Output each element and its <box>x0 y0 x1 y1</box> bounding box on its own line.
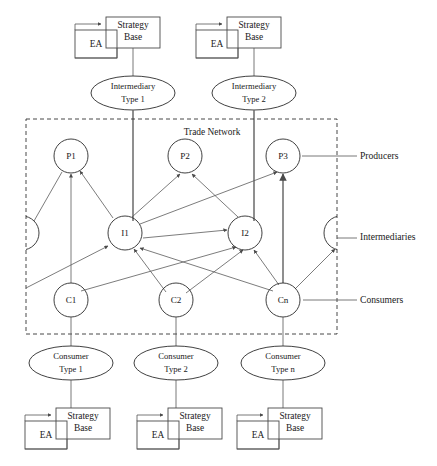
ea-feedback-arrow-intermediary-2 <box>196 24 222 30</box>
strategy-base-label-line2-consumer-1: Base <box>74 423 92 433</box>
ea-feedback-arrow-intermediary-1 <box>75 24 101 30</box>
ea-return-path-intermediary-1 <box>75 48 117 58</box>
trade-network-label: Trade Network <box>184 127 241 137</box>
consumer-type-2-agent-block: Consumer Type 2 EA Strategy Base <box>134 317 222 449</box>
consumer-label-c2: C2 <box>171 295 182 305</box>
intermediary-label-i2: I2 <box>241 228 249 238</box>
intermediary-partial-right-node <box>324 216 358 250</box>
edge-left-partial-to-p1 <box>34 172 62 221</box>
producers-layer: P1 P2 P3 <box>54 139 300 173</box>
edge-i1-to-p2 <box>132 174 180 217</box>
edge-left-edge-to-i1 <box>26 246 108 288</box>
consumer-type-n-label-line1: Consumer <box>265 351 300 361</box>
intermediary-type-2-label-line2: Type 2 <box>242 94 266 104</box>
producer-label-p2: P2 <box>180 151 190 161</box>
edge-c2-to-i2 <box>186 250 243 293</box>
consumer-label-c1: C1 <box>66 295 77 305</box>
consumer-label-cn: Cn <box>278 295 289 305</box>
side-label-producers-group: Producers <box>302 150 399 161</box>
ea-label-intermediary-2: EA <box>211 39 224 49</box>
edge-i1-to-p3 <box>140 172 277 224</box>
consumer-type-2-label-line1: Consumer <box>158 351 193 361</box>
ea-return-path-intermediary-2 <box>196 48 238 58</box>
edge-i1-to-i2 <box>143 230 227 238</box>
consumer-type-1-agent-block: Consumer Type 1 EA Strategy Base <box>25 317 113 449</box>
diagram-canvas: EA Strategy Base Intermediary Type 1 EA … <box>0 0 437 466</box>
trade-network-diagram: EA Strategy Base Intermediary Type 1 EA … <box>0 0 437 466</box>
edge-c2-to-i1 <box>134 249 166 292</box>
ea-return-path-consumer-2 <box>137 439 179 449</box>
intermediary-type-2-agent-block: EA Strategy Base Intermediary Type 2 <box>196 17 296 110</box>
strategy-base-label-line2-intermediary-2: Base <box>245 32 263 42</box>
trade-network-edges <box>5 171 358 293</box>
intermediary-type-1-label-line1: Intermediary <box>111 81 156 91</box>
edge-i2-to-p2 <box>192 174 238 217</box>
ea-feedback-arrow-consumer-n <box>237 415 263 421</box>
strategy-base-label-line1-consumer-n: Strategy <box>279 411 311 421</box>
intermediary-type-1-label-line2: Type 1 <box>121 94 145 104</box>
ea-label-consumer-n: EA <box>252 430 265 440</box>
intermediary-label-i1: I1 <box>121 228 129 238</box>
ea-label-consumer-1: EA <box>40 430 53 440</box>
ea-return-path-consumer-1 <box>25 439 67 449</box>
consumer-type-1-label-line2: Type 1 <box>59 364 83 374</box>
edge-cn-to-right-partial-intermediary <box>295 249 335 289</box>
intermediaries-layer: I1 I2 <box>108 216 262 250</box>
strategy-base-label-line1-intermediary-2: Strategy <box>238 20 270 30</box>
side-label-intermediaries-group: Intermediaries <box>337 231 416 242</box>
intermediary-type-2-label-line1: Intermediary <box>232 81 277 91</box>
side-label-producers: Producers <box>360 150 399 161</box>
strategy-base-label-line2-intermediary-1: Base <box>124 32 142 42</box>
side-label-consumers: Consumers <box>360 294 403 305</box>
strategy-base-label-line2-consumer-n: Base <box>286 423 304 433</box>
consumer-type-2-label-line2: Type 2 <box>164 364 188 374</box>
ea-feedback-arrow-consumer-2 <box>137 415 163 421</box>
side-label-intermediaries: Intermediaries <box>360 231 416 242</box>
strategy-base-label-line1-intermediary-1: Strategy <box>117 20 149 30</box>
ea-label-consumer-2: EA <box>152 430 165 440</box>
edge-i1-to-p1 <box>80 171 113 218</box>
edge-cn-to-i1 <box>140 248 273 291</box>
ea-return-path-consumer-n <box>237 439 279 449</box>
ea-label-intermediary-1: EA <box>90 39 103 49</box>
consumer-type-n-label-line2: Type n <box>271 364 295 374</box>
strategy-base-label-line1-consumer-2: Strategy <box>179 411 211 421</box>
strategy-base-label-line1-consumer-1: Strategy <box>67 411 99 421</box>
ea-feedback-arrow-consumer-1 <box>25 415 51 421</box>
strategy-base-label-line2-consumer-2: Base <box>186 423 204 433</box>
intermediary-type-1-agent-block: EA Strategy Base Intermediary Type 1 <box>75 17 175 110</box>
producer-label-p1: P1 <box>66 151 76 161</box>
consumer-type-n-agent-block: Consumer Type n EA Strategy Base <box>237 317 325 449</box>
consumer-type-1-label-line1: Consumer <box>53 351 88 361</box>
producer-label-p3: P3 <box>278 151 288 161</box>
intermediary-partial-left-node <box>5 216 39 250</box>
side-label-consumers-group: Consumers <box>303 294 403 305</box>
edge-cn-to-i2 <box>254 250 279 285</box>
